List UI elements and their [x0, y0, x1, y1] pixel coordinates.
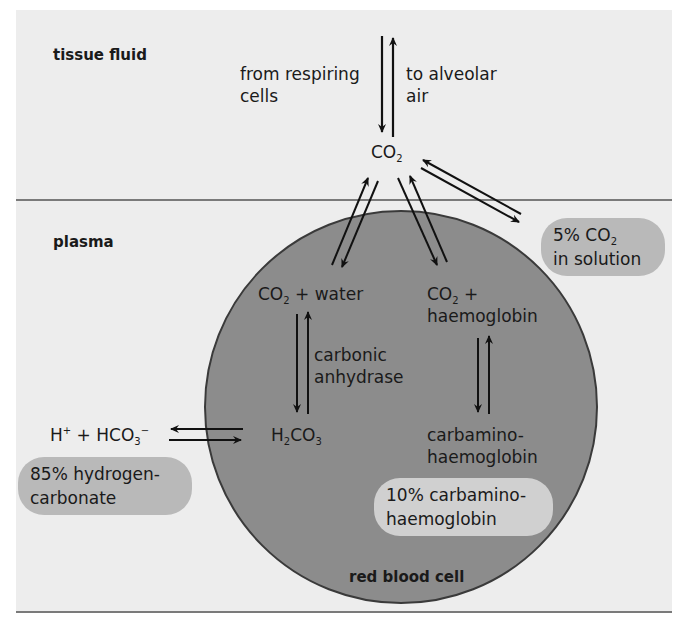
red-blood-cell — [205, 211, 597, 603]
label-carbaminohaemoglobin: carbamino- haemoglobin — [427, 424, 538, 468]
label-h2co3: H2CO3 — [271, 424, 322, 446]
region-label-red-blood-cell: red blood cell — [349, 566, 464, 588]
label-carbonic-anhydrase: carbonic anhydrase — [314, 344, 404, 388]
arrow-to-co2-from-solution — [423, 160, 521, 214]
pill-10-percent-carbaminohaemoglobin: 10% carbamino- haemoglobin — [374, 478, 553, 536]
label-h-plus-hco3: H+ + HCO3− — [50, 424, 149, 446]
label-co2-central: CO2 — [371, 141, 403, 163]
pill-85-percent-hydrogencarbonate: 85% hydrogen- carbonate — [18, 457, 192, 515]
label-co2-haemoglobin: CO2 + haemoglobin — [427, 283, 538, 327]
label-from-respiring: from respiring cells — [240, 63, 360, 107]
label-to-alveolar-air: to alveolar air — [406, 63, 497, 107]
label-co2-water: CO2 + water — [258, 283, 363, 305]
region-label-plasma: plasma — [53, 231, 114, 253]
pill-5-percent-solution: 5% CO2 in solution — [541, 218, 665, 276]
region-label-tissue-fluid: tissue fluid — [53, 44, 147, 66]
